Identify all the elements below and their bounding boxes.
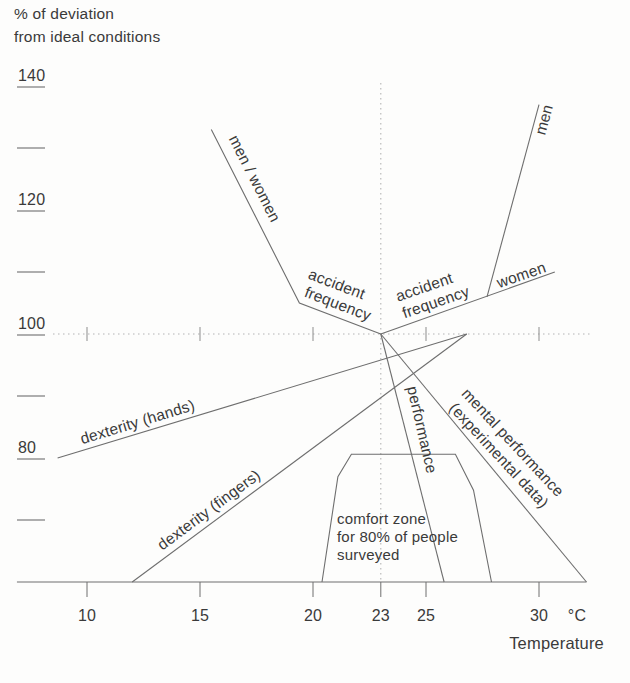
y-tick-label: 120 <box>18 191 45 208</box>
label-comfort-line1: comfort zone <box>337 510 426 527</box>
label-comfort-line3: surveyed <box>337 546 399 563</box>
ergonomics-temperature-chart-page: 10152023253014012010080 % of deviation f… <box>0 0 630 683</box>
label-comfort-line2: for 80% of people <box>337 528 458 545</box>
x-axis-unit: °C <box>568 607 586 624</box>
x-tick-label: 15 <box>191 607 209 624</box>
label-accident-frequency-left: accident frequency <box>300 265 380 324</box>
x-tick-label: 10 <box>78 607 96 624</box>
label-performance: performance <box>404 384 441 475</box>
x-tick-label: 30 <box>530 607 548 624</box>
y-tick-label: 80 <box>18 439 36 456</box>
x-tick-label: 25 <box>417 607 435 624</box>
label-dexterity-fingers: dexterity (fingers) <box>154 466 263 553</box>
label-accident-frequency-right: accident frequency <box>393 265 471 321</box>
label-men-women: men / women <box>226 132 284 225</box>
temperature-deviation-chart: 10152023253014012010080 % of deviation f… <box>0 0 630 683</box>
y-tick-label: 100 <box>18 315 45 332</box>
y-tick-label: 140 <box>18 67 45 84</box>
y-axis-title-line1: % of deviation <box>14 5 114 22</box>
chart-labels: % of deviation from ideal conditions men… <box>14 5 604 652</box>
y-axis-title-line2: from ideal conditions <box>14 28 160 45</box>
x-tick-label: 20 <box>304 607 322 624</box>
series-dexterity-hands <box>58 334 467 458</box>
label-women: women <box>493 258 548 291</box>
x-tick-label: 23 <box>372 607 390 624</box>
x-axis-title: Temperature <box>509 634 604 652</box>
label-mental-performance: mental performance (experimental data) <box>445 385 568 513</box>
reference-lines <box>53 83 590 582</box>
data-series <box>58 105 587 582</box>
label-men: men <box>531 103 555 137</box>
label-comfort-zone: comfort zone for 80% of people surveyed <box>337 510 458 563</box>
axes: 10152023253014012010080 <box>17 67 587 624</box>
